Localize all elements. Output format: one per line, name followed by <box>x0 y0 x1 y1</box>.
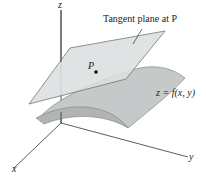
tangent-plane-diagram: z Tangent plane at P P z = f(x, y) x y <box>0 0 206 176</box>
surface-label: z = f(x, y) <box>156 88 195 98</box>
y-axis <box>61 123 188 157</box>
tangent-plane-label-text: Tangent plane at P <box>103 13 177 24</box>
x-axis <box>14 123 61 168</box>
x-axis-label: x <box>12 164 16 174</box>
y-axis-label: y <box>189 152 193 162</box>
point-p <box>94 70 98 74</box>
tangent-plane-label: Tangent plane at P <box>103 14 177 24</box>
z-axis-label: z <box>58 0 62 10</box>
point-p-label: P <box>88 61 94 71</box>
